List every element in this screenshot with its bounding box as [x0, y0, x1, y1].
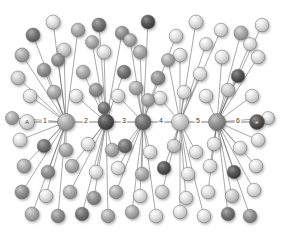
node-sphere [89, 165, 103, 179]
backbone-edge-label: 2 [84, 117, 88, 124]
leaf-node [52, 54, 65, 67]
leaf-node [23, 89, 37, 103]
terminal-node: e [250, 115, 265, 130]
leaf-node [89, 83, 103, 97]
leaf-node [41, 165, 55, 179]
leaf-node [129, 81, 143, 95]
node-sphere [177, 85, 191, 99]
leaf-node [221, 207, 235, 221]
node-sphere [231, 69, 245, 83]
node-sphere [111, 89, 125, 103]
node-sphere [15, 48, 29, 62]
leaf-node [189, 15, 203, 29]
hub-node [58, 114, 75, 131]
graph-canvas: Ae 123456 [0, 0, 281, 237]
leaf-node [233, 141, 247, 155]
node-sphere [87, 191, 101, 205]
backbone-edge-label: 5 [196, 117, 200, 124]
leaf-node [149, 209, 163, 223]
leaf-node [26, 28, 40, 42]
node-sphere [155, 185, 169, 199]
leaf-node [76, 65, 90, 79]
leaf-node [92, 18, 106, 32]
leaf-node [86, 36, 99, 49]
node-sphere [227, 165, 241, 179]
node-sphere [153, 91, 167, 105]
node-sphere [98, 102, 110, 114]
node-sphere [167, 139, 181, 153]
leaf-node [151, 71, 165, 85]
leaf-node [143, 145, 157, 159]
leaf-node [207, 137, 221, 151]
node-sphere [200, 38, 213, 51]
node-sphere [162, 54, 175, 67]
leaf-node [15, 48, 29, 62]
node-sphere [203, 159, 217, 173]
leaf-node [69, 89, 83, 103]
leaf-node [157, 161, 171, 175]
leaf-node [135, 167, 149, 181]
node-sphere [39, 189, 53, 203]
node-sphere [221, 83, 235, 97]
node-sphere [25, 207, 39, 221]
leaf-node [37, 139, 51, 153]
node-sphere [199, 89, 213, 103]
node-sphere [76, 65, 90, 79]
leaf-node [189, 145, 203, 159]
node-sphere [105, 143, 119, 157]
node-sphere [75, 207, 89, 221]
node-sphere [41, 165, 55, 179]
leaf-node [59, 143, 73, 157]
node-sphere [173, 205, 187, 219]
leaf-node [167, 139, 181, 153]
node-sphere [189, 145, 203, 159]
node-sphere [101, 209, 115, 223]
node-sphere [173, 48, 187, 62]
leaf-node [13, 133, 27, 147]
leaf-node [197, 209, 211, 223]
leaf-node [141, 15, 155, 29]
node-sphere [51, 209, 65, 223]
leaf-node [251, 50, 265, 64]
node-sphere [215, 50, 229, 64]
node-sphere [133, 45, 147, 59]
leaf-node [133, 45, 147, 59]
node-sphere [209, 114, 226, 131]
node-sphere [189, 15, 203, 29]
graph-edge [208, 122, 217, 192]
node-sphere [6, 112, 19, 125]
node-sphere [118, 139, 132, 153]
backbone-edge-label: 1 [43, 117, 47, 124]
leaf-node [75, 207, 89, 221]
hub-node [98, 114, 114, 130]
node-sphere [58, 114, 75, 131]
leaf-node [249, 159, 263, 173]
graph-edge [217, 122, 254, 190]
node-sphere [69, 89, 83, 103]
terminal-node: A [20, 115, 35, 130]
node-sphere [234, 26, 248, 40]
node-sphere [65, 159, 79, 173]
node-sphere [81, 137, 95, 151]
leaf-node [244, 38, 257, 51]
leaf-node [101, 209, 115, 223]
graph-edge [83, 72, 106, 122]
node-sphere [179, 191, 193, 205]
leaf-node [215, 50, 229, 64]
node-sphere [135, 167, 149, 181]
leaf-node [227, 165, 241, 179]
node-sphere [207, 137, 221, 151]
leaf-node [87, 191, 101, 205]
node-sphere [157, 161, 171, 175]
node-sphere [169, 29, 183, 43]
node-sphere [63, 185, 77, 199]
leaf-node [125, 205, 139, 219]
node-sphere [52, 54, 65, 67]
node-sphere [129, 81, 143, 95]
leaf-node [15, 185, 29, 199]
leaf-node [225, 189, 239, 203]
node-sphere [249, 159, 263, 173]
leaf-node [231, 69, 245, 83]
leaf-node [46, 15, 60, 29]
node-sphere [46, 15, 60, 29]
